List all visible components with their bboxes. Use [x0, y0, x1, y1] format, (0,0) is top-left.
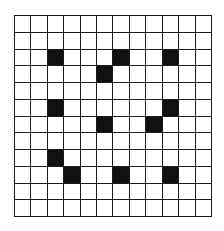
- grid-cell: [195, 116, 211, 133]
- grid-cell: [129, 116, 145, 133]
- grid-cell: [30, 132, 46, 149]
- grid-cell: [195, 149, 211, 166]
- grid-cell: [80, 116, 96, 133]
- grid-cell: [14, 116, 30, 133]
- grid-cell: [145, 49, 161, 66]
- grid-cell: [96, 132, 112, 149]
- grid-cell: [14, 132, 30, 149]
- grid-cell: [145, 99, 161, 116]
- grid-cell: [14, 199, 30, 216]
- grid-cell: [178, 49, 194, 66]
- grid-cell: [129, 32, 145, 49]
- grid-cell: [63, 99, 79, 116]
- grid-cell: [112, 82, 128, 99]
- grid-cell: [63, 15, 79, 32]
- grid-cell: [162, 149, 178, 166]
- grid-cell: [63, 116, 79, 133]
- grid-cell: [129, 82, 145, 99]
- grid-cell: [30, 199, 46, 216]
- grid-cell: [195, 99, 211, 116]
- grid-cell: [63, 199, 79, 216]
- grid-cell: [195, 65, 211, 82]
- grid-cell: [63, 183, 79, 200]
- grid-cell-filled: [96, 116, 112, 133]
- grid-cell: [80, 199, 96, 216]
- grid-cell: [145, 199, 161, 216]
- grid-cell: [112, 15, 128, 32]
- grid-cell: [80, 65, 96, 82]
- grid-cell: [80, 183, 96, 200]
- grid-cell: [14, 183, 30, 200]
- grid-cell: [30, 49, 46, 66]
- grid-cell-filled: [112, 49, 128, 66]
- grid-cell: [14, 49, 30, 66]
- grid-cell: [47, 15, 63, 32]
- grid-cell: [129, 99, 145, 116]
- grid-cell-filled: [145, 116, 161, 133]
- grid-cell: [14, 32, 30, 49]
- grid-cell: [30, 183, 46, 200]
- grid-cell: [178, 132, 194, 149]
- grid-cell: [178, 99, 194, 116]
- grid-cell-filled: [47, 49, 63, 66]
- grid-cell: [47, 82, 63, 99]
- grid-cell: [178, 199, 194, 216]
- grid-cell: [112, 149, 128, 166]
- grid-cell: [96, 183, 112, 200]
- grid-cell: [162, 199, 178, 216]
- grid-cell: [14, 149, 30, 166]
- grid-cell: [195, 32, 211, 49]
- grid-cell: [195, 82, 211, 99]
- grid-cell: [178, 183, 194, 200]
- grid-cell: [14, 82, 30, 99]
- grid-cell: [129, 65, 145, 82]
- grid-cell: [96, 15, 112, 32]
- grid-cell: [178, 116, 194, 133]
- grid-cell: [96, 49, 112, 66]
- grid-cell: [195, 15, 211, 32]
- grid-cell: [30, 166, 46, 183]
- grid-cell: [30, 99, 46, 116]
- grid-cell: [112, 65, 128, 82]
- grid-cell: [14, 166, 30, 183]
- grid-cell: [63, 82, 79, 99]
- grid-cell-filled: [63, 166, 79, 183]
- grid-cell: [178, 65, 194, 82]
- grid-cell: [145, 82, 161, 99]
- grid-cell-filled: [112, 166, 128, 183]
- grid-cell: [96, 149, 112, 166]
- grid-cell: [30, 32, 46, 49]
- grid-cell: [195, 199, 211, 216]
- grid-cell: [47, 116, 63, 133]
- grid-cell: [178, 32, 194, 49]
- grid-cell: [112, 199, 128, 216]
- grid-cell: [145, 149, 161, 166]
- grid-cell: [96, 82, 112, 99]
- grid-cell: [129, 199, 145, 216]
- grid-cell: [162, 65, 178, 82]
- grid-cell: [145, 15, 161, 32]
- grid-cell: [162, 82, 178, 99]
- grid-cell: [129, 183, 145, 200]
- grid-cell: [80, 15, 96, 32]
- grid-cell: [178, 149, 194, 166]
- grid-cell-filled: [162, 49, 178, 66]
- grid-cell: [63, 49, 79, 66]
- grid-cell: [96, 32, 112, 49]
- grid-cell: [178, 15, 194, 32]
- grid-cell: [129, 166, 145, 183]
- grid-cell: [112, 116, 128, 133]
- grid-cell: [145, 183, 161, 200]
- grid-cell: [80, 49, 96, 66]
- grid-cell: [145, 132, 161, 149]
- grid-cell: [80, 149, 96, 166]
- grid-cell: [96, 99, 112, 116]
- grid-cell: [63, 65, 79, 82]
- grid-cell-filled: [47, 149, 63, 166]
- grid-cell: [112, 132, 128, 149]
- grid-cell: [96, 166, 112, 183]
- grid-cell: [129, 49, 145, 66]
- grid-cell: [14, 65, 30, 82]
- grid-cell: [162, 183, 178, 200]
- grid-cell: [112, 183, 128, 200]
